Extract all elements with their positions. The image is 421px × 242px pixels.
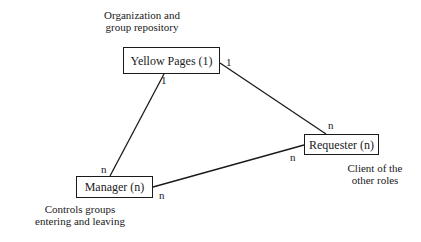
mult-yellowpages-to-requester: 1 — [226, 57, 232, 68]
manager-note: Controls groups entering and leaving — [28, 203, 132, 227]
mult-requester-from-yellowpages: n — [328, 120, 334, 131]
edge-manager-requester — [153, 145, 304, 187]
manager-label: Manager (n) — [85, 181, 145, 193]
requester-label: Requester (n) — [309, 139, 374, 151]
requester-note-line-1: Client of the — [340, 162, 410, 174]
mult-manager-from-yellowpages: n — [101, 164, 107, 175]
yellow-pages-note-line-2: group repository — [92, 21, 192, 33]
manager-note-line-2: entering and leaving — [28, 215, 132, 227]
mult-yellowpages-to-manager: 1 — [161, 75, 167, 86]
yellow-pages-note-line-1: Organization and — [92, 9, 192, 21]
yellow-pages-note: Organization and group repository — [92, 9, 192, 33]
mult-manager-to-requester: n — [159, 190, 165, 201]
requester-node: Requester (n) — [304, 134, 379, 155]
edge-yellowpages-manager — [110, 74, 164, 176]
role-diagram: Organization and group repository Client… — [0, 0, 421, 242]
yellow-pages-label: Yellow Pages (1) — [130, 55, 212, 67]
yellow-pages-node: Yellow Pages (1) — [123, 47, 220, 74]
edge-yellowpages-requester — [220, 63, 326, 134]
requester-note: Client of the other roles — [340, 162, 410, 186]
manager-note-line-1: Controls groups — [28, 203, 132, 215]
manager-node: Manager (n) — [76, 176, 153, 198]
mult-requester-from-manager: n — [290, 152, 296, 163]
requester-note-line-2: other roles — [340, 174, 410, 186]
